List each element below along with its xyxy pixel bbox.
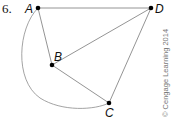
label-C: C [105, 106, 114, 120]
point-A [36, 6, 41, 11]
point-D [149, 6, 154, 11]
segment-BD [52, 8, 151, 65]
geometry-figure: 6. A B C D © Cengage Learning 2014 [0, 0, 175, 121]
segment-AB [38, 8, 52, 65]
segment-CD [109, 8, 151, 103]
label-A: A [24, 2, 33, 16]
segment-BC [52, 65, 109, 103]
arc-AC [22, 8, 109, 108]
label-D: D [155, 2, 164, 16]
problem-number: 6. [2, 1, 12, 16]
point-C [107, 101, 112, 106]
label-B: B [54, 50, 62, 64]
copyright-credit: © Cengage Learning 2014 [161, 29, 170, 117]
